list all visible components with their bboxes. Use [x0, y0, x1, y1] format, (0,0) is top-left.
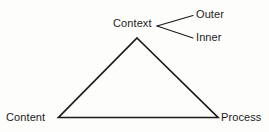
branch-label-outer: Outer	[196, 8, 224, 21]
triangle-outline	[59, 38, 219, 118]
inner-connector-line	[157, 26, 193, 38]
triangle-diagram: Context Content Process Outer Inner	[0, 0, 269, 132]
triangle-shape	[59, 38, 219, 118]
node-label-content: Content	[6, 111, 45, 124]
branch-connectors	[157, 16, 193, 39]
branch-label-inner: Inner	[196, 31, 222, 44]
node-label-process: Process	[221, 111, 261, 124]
outer-connector-line	[157, 16, 193, 27]
node-label-context: Context	[113, 17, 152, 30]
